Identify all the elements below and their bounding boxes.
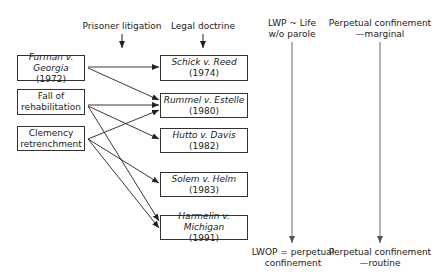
case-box-hutto: Hutto v. Davis (1982) [160, 128, 248, 153]
cause-box-fall-of-rehabilitation: Fall of rehabilitation [17, 89, 85, 115]
perpetual-routine-line2: —routine [325, 258, 435, 269]
fall-line1: Fall of [38, 91, 64, 102]
case-box-schick: Schick v. Reed (1974) [160, 55, 248, 81]
furman-line1: Furman v. [29, 52, 74, 63]
edge-clemency-harmelin [88, 139, 159, 228]
schick-name: Schick v. Reed [171, 57, 236, 68]
case-box-harmelin: Harmelin v. Michigan (1991) [160, 215, 248, 240]
harmelin-name: Harmelin v. Michigan [161, 211, 247, 233]
schick-year: (1974) [189, 68, 219, 79]
fall-line2: rehabilitation [21, 102, 81, 113]
clemency-line1: Clemency [29, 128, 74, 139]
header-lwp-life-without-parole: LWP ~ Life w/o parole [252, 18, 332, 40]
header-legal-doctrine: Legal doctrine [158, 21, 248, 32]
perpetual-routine-line1: Perpetual confinement [325, 247, 435, 258]
header-perpetual-marginal: Perpetual confinement —marginal [325, 18, 435, 40]
furman-year: (1972) [36, 74, 66, 84]
edge-fall-harmelin [88, 106, 159, 221]
case-box-solem: Solem v. Helm (1983) [160, 172, 248, 197]
rummel-year: (1980) [189, 106, 219, 117]
edge-clemency-solem [88, 139, 159, 183]
lwp-line1: LWP ~ Life [252, 18, 332, 29]
edge-clemency-rummel [88, 110, 159, 139]
harmelin-year: (1991) [189, 233, 219, 244]
lwp-line2: w/o parole [252, 29, 332, 40]
header-prisoner-litigation: Prisoner litigation [72, 21, 172, 32]
hutto-year: (1982) [189, 141, 219, 152]
cause-box-furman: Furman v. Georgia (1972) [17, 55, 85, 81]
furman-georgia: Georgia [33, 63, 68, 73]
case-box-rummel: Rummel v. Estelle (1980) [160, 93, 248, 118]
rummel-name: Rummel v. Estelle [164, 95, 245, 106]
perpetual-marginal-line1: Perpetual confinement [325, 18, 435, 29]
footer-perpetual-routine: Perpetual confinement —routine [325, 247, 435, 269]
hutto-name: Hutto v. Davis [172, 130, 235, 141]
furman-line2: Georgia (1972) [18, 63, 84, 85]
solem-year: (1983) [189, 185, 219, 196]
edge-furman-rummel [88, 68, 159, 100]
solem-name: Solem v. Helm [172, 174, 237, 185]
cause-box-clemency-retrenchment: Clemency retrenchment [17, 126, 85, 151]
perpetual-marginal-line2: —marginal [325, 29, 435, 40]
clemency-line2: retrenchment [20, 139, 82, 150]
